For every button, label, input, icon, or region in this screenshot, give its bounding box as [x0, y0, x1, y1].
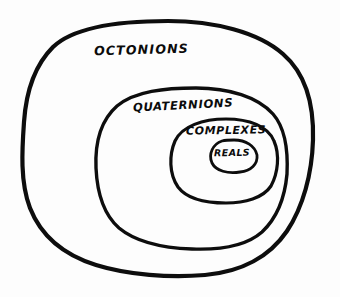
- reals-label: REALS: [214, 148, 250, 160]
- octonions-boundary-shape: [22, 21, 313, 276]
- quaternions-boundary-shape: [96, 88, 287, 249]
- octonions-label: OCTONIONS: [94, 41, 189, 58]
- diagram-canvas: OCTONIONS QUATERNIONS COMPLEXES REALS: [0, 0, 340, 297]
- complexes-label: COMPLEXES: [186, 123, 266, 137]
